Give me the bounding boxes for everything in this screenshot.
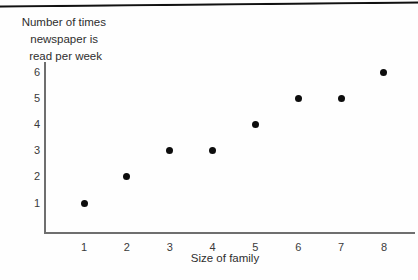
data-point <box>252 121 259 128</box>
data-point <box>380 69 387 76</box>
data-point <box>166 147 173 154</box>
data-point <box>338 95 345 102</box>
data-point <box>81 200 88 207</box>
plot-area <box>0 0 418 280</box>
data-point <box>209 147 216 154</box>
data-point <box>123 173 130 180</box>
x-axis-title: Size of family <box>155 252 295 264</box>
scatter-plot-figure: Number of times newspaper is read per we… <box>0 0 418 280</box>
data-point <box>295 95 302 102</box>
